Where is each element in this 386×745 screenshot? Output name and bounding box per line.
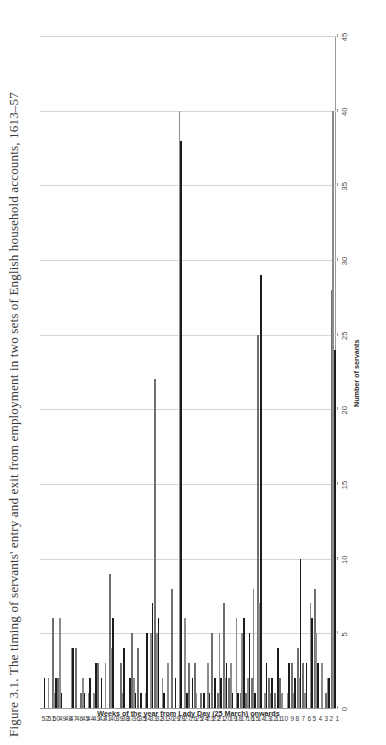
bar-week-3-series-gray [321,663,323,708]
bar-week-15-series-black [254,693,256,708]
bar-week-14-series-black [260,275,262,708]
value-tick-mark [337,183,338,186]
bar-week-21-series-black [220,678,222,708]
value-tick-label-15: 15 [340,479,349,491]
plot-area [40,37,336,709]
value-tick-mark [337,407,338,410]
gridline [40,36,336,37]
bar-week-6-series-black [306,663,308,708]
rotated-figure: Figure 3.1. The timing of servants' entr… [0,0,386,745]
gridline [40,409,336,410]
bar-week-11-series-white [274,693,276,708]
bar-week-29-series-white [171,589,173,708]
bar-week-42-series-white [97,663,99,708]
bar-week-23-series-black [209,693,211,708]
gridline [40,111,336,112]
bar-week-17-series-black [243,618,245,708]
gridline [40,185,336,186]
value-tick-label-30: 30 [340,255,349,267]
bar-week-32-series-black [158,618,160,708]
bar-week-31-series-black [163,693,165,708]
bar-week-2-series-black [328,678,330,708]
bar-week-51-series-gray [48,678,50,708]
bar-week-34-series-black [146,633,148,708]
bar-week-28-series-black [180,141,182,708]
bar-week-8-series-black [294,678,296,708]
value-tick-mark [337,34,338,37]
bar-week-27-series-black [186,693,188,708]
bar-week-24-series-white [200,693,202,708]
gridline [40,335,336,336]
value-tick-label-10: 10 [340,554,349,566]
bar-week-22-series-black [214,678,216,708]
bar-week-49-series-black [61,693,63,708]
value-tick-mark [337,333,338,336]
bar-week-37-series-black [129,678,131,708]
bar-week-22-series-white [211,633,213,708]
gridline [40,484,336,485]
bar-week-16-series-black [249,633,251,708]
bar-week-29-series-black [175,678,177,708]
bar-week-7-series-black [300,559,302,708]
bar-week-26-series-white [188,663,190,708]
bar-week-36-series-black [135,693,137,708]
figure-page: Figure 3.1. The timing of servants' entr… [0,0,386,745]
value-tick-label-40: 40 [340,106,349,118]
value-tick-label-0: 0 [340,703,349,715]
gridline [40,633,336,634]
bar-week-20-series-black [226,663,228,708]
bar-week-46-series-white [75,648,77,708]
bar-week-35-series-black [140,693,142,708]
value-tick-mark [337,109,338,112]
bar-week-13-series-black [266,663,268,708]
bar-week-42-series-black [101,678,103,708]
bar-week-10-series-gray [281,693,283,708]
value-tick-mark [337,557,338,560]
bar-week-43-series-black [95,663,97,708]
bar-week-18-series-black [237,693,239,708]
gridline [40,260,336,261]
value-tick-mark [337,482,338,485]
bar-week-26-series-black [192,678,194,708]
bar-week-40-series-black [112,618,114,708]
bar-week-4-series-black [317,663,319,708]
bar-week-52-series-black [44,678,46,708]
bar-week-41-series-gray [105,663,107,708]
bar-week-38-series-black [123,648,125,708]
value-tick-label-45: 45 [340,31,349,43]
bar-week-44-series-black [89,678,91,708]
bar-week-1-series-black [334,350,336,708]
bar-week-12-series-black [271,678,273,708]
value-tick-mark [337,706,338,709]
bar-week-9-series-black [288,663,290,708]
bar-week-30-series-gray [167,663,169,708]
bar-week-50-series-black [55,678,57,708]
value-tick-label-5: 5 [340,628,349,640]
bar-week-5-series-black [311,618,313,708]
bar-week-35-series-white [137,648,139,708]
bar-week-47-series-black [72,648,74,708]
value-tick-label-35: 35 [340,180,349,192]
bar-week-15-series-gray [253,589,255,708]
value-tick-mark [337,258,338,261]
value-tick-mark [337,631,338,634]
gridline [40,559,336,560]
bar-week-24-series-black [203,693,205,708]
week-label-52: 52 [36,715,49,722]
bar-week-45-series-black [84,693,86,708]
bar-week-25-series-gray [196,693,198,708]
value-axis-title: Number of servants [352,339,361,407]
value-tick-label-20: 20 [340,404,349,416]
bar-week-11-series-black [277,648,279,708]
bar-week-19-series-black [232,693,234,708]
bar-week-33-series-black [152,603,154,708]
value-tick-label-25: 25 [340,330,349,342]
figure-caption: Figure 3.1. The timing of servants' entr… [6,17,22,737]
category-axis-title: Weeks of the year from Lady Day (25 Marc… [97,709,279,718]
